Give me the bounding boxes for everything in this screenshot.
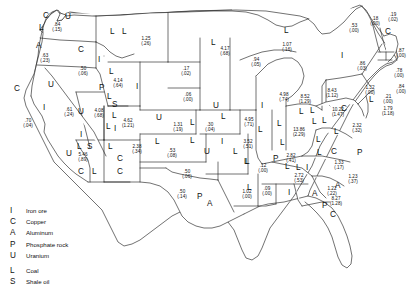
value-ar: .12(.00) <box>254 163 272 173</box>
symbol-az-c: C <box>78 168 84 176</box>
legend-symbol-C: C <box>10 217 26 226</box>
symbol-ky-l: L <box>280 139 285 147</box>
value-va: 2.32(.32) <box>347 123 367 133</box>
value-in: 4.98(.74) <box>275 92 293 102</box>
symbol-oh-l: L <box>299 108 304 116</box>
value-ok: .50(.06) <box>178 169 196 179</box>
symbol-me-c: C <box>385 28 391 36</box>
symbol-co-u: U <box>156 114 162 122</box>
legend-symbol-P: P <box>10 240 26 249</box>
value-id: .50(.06) <box>74 66 92 76</box>
value-ct: .78(.00) <box>390 68 408 78</box>
symbol-nj-p: L <box>369 96 374 104</box>
value-ut: 4.08(.68) <box>90 108 108 118</box>
value-tn: 2.72(.53) <box>289 173 309 183</box>
value-sc: 1.23(.37) <box>343 174 363 184</box>
value-md: 1.79(1.18) <box>378 106 398 116</box>
legend-symbol-A: A <box>10 228 26 237</box>
symbol-ut-i: I <box>80 131 82 139</box>
value-or: .63(.23) <box>36 53 54 63</box>
symbol-wv-l2: L <box>322 117 327 125</box>
value-ny: .86(.03) <box>353 61 371 71</box>
symbol-nv-i: I <box>43 104 45 112</box>
symbol-wa-u: U <box>65 13 71 21</box>
value-oh: 8.52(1.29) <box>294 94 316 104</box>
legend-symbol-U: U <box>10 251 26 260</box>
value-ri: .84(.00) <box>392 84 410 94</box>
symbol-tx-u: A <box>207 200 213 208</box>
symbol-ok-l: U <box>204 148 210 156</box>
value-nd: .17(.02) <box>177 66 195 76</box>
symbol-wy-p: P <box>99 84 105 92</box>
legend-item-uranium: U Uranium <box>10 250 68 261</box>
value-de: .21(.00) <box>379 94 397 104</box>
value-nc: 1.33(.17) <box>329 160 349 170</box>
symbol-nc-c: C <box>331 148 337 156</box>
value-vt: .18(.00) <box>366 16 384 26</box>
map-legend: I Iron ore C Copper A Aluminum P Phospha… <box>10 205 68 287</box>
value-al: 2.82(.41) <box>281 153 301 163</box>
symbol-id-c: C <box>78 46 84 54</box>
symbol-co-l: L <box>112 112 117 120</box>
symbol-az-l2: S <box>87 143 93 151</box>
symbol-mi-l: L <box>284 27 289 35</box>
value-me: .19(.02) <box>384 12 402 22</box>
symbol-al-p: P <box>273 155 279 163</box>
value-nm: 2.38(.34) <box>127 144 147 154</box>
value-ia: .30(.04) <box>201 122 219 132</box>
value-mt: 1.25(.26) <box>137 36 155 46</box>
us-resource-map: C L U .84(.15) A .63(.23) C I .50(.06) L… <box>0 0 413 289</box>
symbol-wa-c: C <box>43 12 49 20</box>
value-il: 4.95(.71) <box>240 117 258 127</box>
value-co: 4.62(1.21) <box>118 118 138 128</box>
symbol-ar-l: L <box>244 158 249 166</box>
symbol-nm-i: C <box>117 155 123 163</box>
symbol-nm-l: L <box>108 143 113 151</box>
legend-label-aluminum: Aluminum <box>26 229 53 236</box>
value-la: 1.02(.00) <box>237 189 257 199</box>
legend-item-iron-ore: I Iron ore <box>10 205 68 216</box>
value-mi: 1.07(.16) <box>277 42 297 52</box>
legend-label-shale-oil: Shale oil <box>26 278 49 285</box>
legend-label-uranium: Uranium <box>26 252 49 259</box>
value-wa: .84(.15) <box>48 22 66 32</box>
value-mn: 4.17(.68) <box>215 46 235 56</box>
symbol-al-i: I <box>288 189 290 197</box>
symbol-nv-u2: U <box>66 150 72 158</box>
symbol-ga-a: A <box>312 190 318 198</box>
symbol-va-l: L <box>334 128 339 136</box>
value-ky: 13.86(2.29) <box>287 127 311 137</box>
symbol-ut-u: U <box>78 108 84 116</box>
legend-label-copper: Copper <box>26 218 46 225</box>
legend-item-shale-oil: S Shale oil <box>10 276 68 287</box>
symbol-ny-i: I <box>341 52 343 60</box>
legend-label-phosphate-rock: Phosphate rock <box>26 241 68 248</box>
symbol-oh-l2: L <box>310 107 315 115</box>
symbol-ia-l2: L <box>221 113 226 121</box>
value-ne: 1.31(.19) <box>169 122 187 132</box>
symbol-wv-l: L <box>312 118 317 126</box>
legend-label-iron-ore: Iron ore <box>26 207 47 214</box>
symbol-nm-c: C <box>117 168 123 176</box>
value-wi: .94(.05) <box>247 57 265 67</box>
symbol-ky-l2: L <box>316 136 321 144</box>
symbol-il-l: I <box>261 102 263 110</box>
symbol-wy-s: S <box>112 101 118 109</box>
symbol-mt-l2: L <box>122 28 127 36</box>
symbol-mt-l1: L <box>110 28 115 36</box>
value-ks: .53(.08) <box>163 148 181 158</box>
value-wy: 4.14(.64) <box>108 78 128 88</box>
value-ca: .70(.04) <box>19 118 37 128</box>
symbol-wy-i: I <box>136 83 138 91</box>
value-sd: .06(.00) <box>179 92 197 102</box>
legend-symbol-L: L <box>10 266 26 275</box>
symbol-tn-i: I <box>306 164 308 172</box>
symbol-nv-u: U <box>48 81 54 89</box>
legend-item-coal: L Coal <box>10 265 68 276</box>
symbol-nm-u: L <box>155 138 160 146</box>
symbol-nc-p: P <box>357 149 363 157</box>
value-az: 5.46(.89) <box>73 152 93 162</box>
symbol-ks-l: L <box>190 137 195 145</box>
symbol-co-l2: L <box>106 123 111 131</box>
legend-item-aluminum: A Aluminum <box>10 227 68 238</box>
